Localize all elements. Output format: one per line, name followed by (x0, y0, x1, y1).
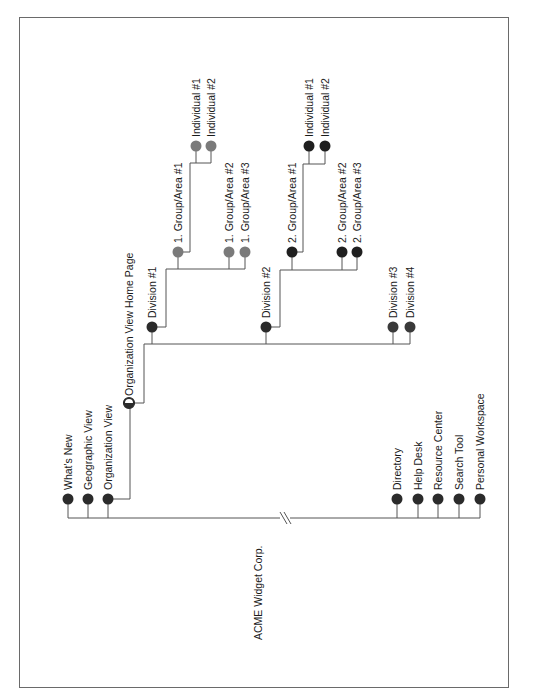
node-label: 2. Group/Area #1 (286, 162, 298, 243)
node-dot-icon (454, 494, 465, 505)
node-label: Directory (391, 447, 403, 490)
node-dot-icon (388, 322, 399, 333)
node-label: 2. Group/Area #2 (336, 162, 348, 243)
node-dot-icon (413, 494, 424, 505)
half-filled-dot-icon (124, 398, 135, 409)
node-d1-individual-1[interactable]: Individual #1 (190, 78, 202, 152)
node-dot-icon (240, 247, 251, 258)
site-map-diagram: What's New Geographic View Organization … (0, 0, 545, 699)
node-label: 1. Group/Area #2 (223, 162, 235, 243)
node-dot-icon (206, 141, 217, 152)
node-division-2[interactable]: Division #2 (260, 266, 272, 332)
node-label: Personal Workspace (474, 393, 486, 490)
node-dot-icon (337, 247, 348, 258)
node-label: 2. Group/Area #3 (351, 162, 363, 243)
break-mark-icon (280, 512, 287, 524)
node-label: 1. Group/Area #3 (239, 162, 251, 243)
node-label: Division #3 (387, 266, 399, 318)
node-label: 1. Group/Area #1 (172, 162, 184, 243)
node-label: Division #4 (404, 266, 416, 318)
node-d2-group-2[interactable]: 2. Group/Area #2 (336, 162, 348, 257)
node-personal-workspace[interactable]: Personal Workspace (474, 393, 486, 504)
node-dot-icon (63, 494, 74, 505)
node-label: Division #1 (146, 266, 158, 318)
node-d1-group-3[interactable]: 1. Group/Area #3 (239, 162, 251, 257)
node-dot-icon (173, 247, 184, 258)
node-organization-view[interactable]: Organization View (102, 405, 114, 505)
node-label: Individual #2 (319, 78, 331, 137)
node-dot-icon (191, 141, 202, 152)
node-label: Organization View (102, 405, 114, 490)
node-label: Individual #2 (205, 78, 217, 137)
node-label: Resource Center (432, 410, 444, 490)
node-dot-icon (433, 494, 444, 505)
diagram-title: ACME Widget Corp. (252, 545, 264, 640)
node-label: Individual #1 (190, 78, 202, 137)
node-d2-individual-1[interactable]: Individual #1 (303, 78, 315, 152)
node-d2-group-1[interactable]: 2. Group/Area #1 (286, 162, 298, 257)
node-dot-icon (103, 494, 114, 505)
node-label: What's New (62, 434, 74, 490)
node-org-view-home-page[interactable]: Organization View Home Page (123, 252, 135, 408)
node-directory[interactable]: Directory (391, 447, 403, 504)
node-dot-icon (261, 322, 272, 333)
node-dot-icon (320, 141, 331, 152)
node-dot-icon (304, 141, 315, 152)
node-dot-icon (224, 247, 235, 258)
node-geographic-view[interactable]: Geographic View (82, 410, 94, 505)
node-division-1[interactable]: Division #1 (146, 266, 158, 332)
node-dot-icon (287, 247, 298, 258)
node-division-3[interactable]: Division #3 (387, 266, 399, 332)
node-label: Organization View Home Page (123, 252, 135, 396)
node-d1-group-2[interactable]: 1. Group/Area #2 (223, 162, 235, 257)
node-d2-individual-2[interactable]: Individual #2 (319, 78, 331, 152)
node-dot-icon (147, 322, 158, 333)
node-label: Division #2 (260, 266, 272, 318)
node-label: Help Desk (412, 441, 424, 490)
node-dot-icon (475, 494, 486, 505)
node-resource-center[interactable]: Resource Center (432, 410, 444, 504)
node-division-4[interactable]: Division #4 (404, 266, 416, 332)
node-d1-group-1[interactable]: 1. Group/Area #1 (172, 162, 184, 257)
node-d1-individual-2[interactable]: Individual #2 (205, 78, 217, 152)
node-help-desk[interactable]: Help Desk (412, 441, 424, 505)
node-dot-icon (405, 322, 416, 333)
node-search-tool[interactable]: Search Tool (453, 435, 465, 505)
node-label: Geographic View (82, 410, 94, 490)
node-dot-icon (83, 494, 94, 505)
node-dot-icon (352, 247, 363, 258)
node-dot-icon (392, 494, 403, 505)
node-label: Search Tool (453, 435, 465, 490)
node-label: Individual #1 (303, 78, 315, 137)
node-whats-new[interactable]: What's New (62, 434, 74, 505)
node-d2-group-3[interactable]: 2. Group/Area #3 (351, 162, 363, 257)
